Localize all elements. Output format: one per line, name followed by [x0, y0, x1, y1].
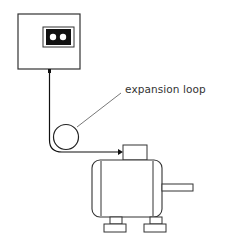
expansion-loop [54, 125, 79, 150]
arrow-icon [118, 149, 123, 155]
shaft [162, 184, 193, 191]
terminal-box [123, 145, 147, 160]
motor [92, 160, 193, 232]
leader-line [77, 93, 121, 127]
connector-socket-icon [43, 27, 74, 47]
control-box [18, 14, 80, 73]
wiring-diagram [0, 0, 234, 245]
expansion-loop-label: expansion loop [125, 83, 206, 95]
cable [50, 73, 121, 152]
diagram-canvas: expansion loop [0, 0, 234, 245]
